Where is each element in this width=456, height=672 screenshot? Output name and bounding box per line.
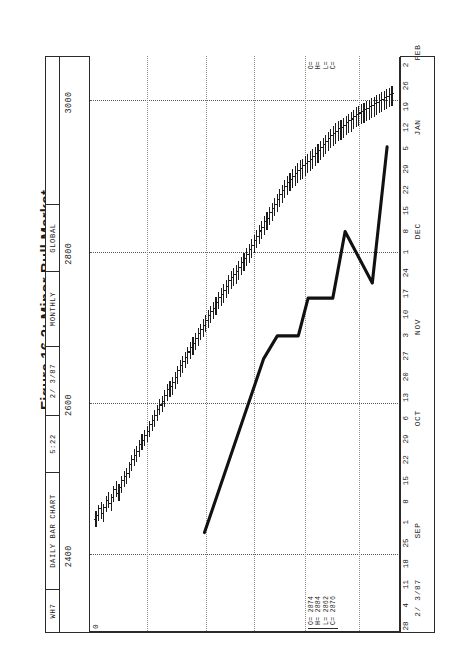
ohlc-open-tick (378, 102, 379, 103)
ohlc-open-tick (133, 459, 134, 460)
ohlc-open-tick (339, 128, 340, 129)
x-axis-month-label: DEC (414, 223, 422, 239)
ohlc-open-tick (107, 500, 108, 501)
ohlc-open-tick (171, 386, 172, 387)
x-axis-date-label: 3 (402, 333, 410, 338)
x-axis-month-label: SEP (414, 522, 422, 538)
ohlc-open-tick (385, 97, 386, 98)
grid-line-vertical (90, 100, 400, 101)
ohlc-open-tick (370, 106, 371, 107)
ohlc-open-tick (242, 262, 243, 263)
x-axis-date-label: 1 (402, 520, 410, 525)
ohlc-open-tick (304, 165, 305, 166)
ohlc-open-tick (222, 294, 223, 295)
ohlc-open-tick (135, 455, 136, 456)
x-axis-month-label: NOV (414, 319, 422, 335)
ohlc-open-tick (301, 168, 302, 169)
x-axis-date-label: 28 (402, 621, 410, 630)
ohlc-open-tick (125, 476, 126, 477)
ohlc-open-tick (293, 176, 294, 177)
ohlc-open-tick (202, 329, 203, 330)
grid-line-horizontal (359, 56, 360, 631)
ohlc-open-tick (240, 267, 241, 268)
ohlc-open-tick (362, 111, 363, 112)
ohlc-open-tick (232, 277, 233, 278)
ohlc-open-tick (161, 404, 162, 405)
x-axis-date-label: 6 (402, 416, 410, 421)
ohlc-open-tick (245, 258, 246, 259)
x-axis-date-label: 11 (402, 580, 410, 589)
x-axis-date-label: 15 (402, 206, 410, 215)
ohlc-open-tick (166, 395, 167, 396)
ohlc-open-tick (327, 141, 328, 142)
grid-line-vertical (90, 554, 400, 555)
ohlc-open-tick (115, 489, 116, 490)
ohlc-open-tick (105, 507, 106, 508)
ohlc-open-tick (265, 221, 266, 222)
x-axis-date-label: 24 (402, 268, 410, 277)
ohlc-open-tick (130, 464, 131, 465)
ohlc-open-tick (350, 120, 351, 121)
ohlc-open-tick (151, 424, 152, 425)
ohlc-open-tick (329, 138, 330, 139)
ohlc-open-tick (311, 159, 312, 160)
grid-line-horizontal (147, 56, 148, 631)
ohlc-open-tick (191, 347, 192, 348)
ohlc-open-tick (194, 343, 195, 344)
ohlc-open-tick (373, 105, 374, 106)
y-axis-scale: 3000280026002400 (59, 57, 89, 632)
x-axis-date-label: 25 (402, 538, 410, 547)
ohlc-open-tick (258, 236, 259, 237)
ohlc-open-tick (306, 163, 307, 164)
x-axis-month-label: OCT (414, 410, 422, 426)
ohlc-open-tick (344, 125, 345, 126)
ohlc-open-tick (342, 127, 343, 128)
ohlc-open-tick (360, 112, 361, 113)
ohlc-open-tick (324, 144, 325, 145)
x-axis-date-label: 29 (402, 434, 410, 443)
ohlc-open-tick (347, 122, 348, 123)
ohlc-open-tick (97, 515, 98, 516)
ohlc-open-tick (237, 271, 238, 272)
ohlc-open-tick (207, 320, 208, 321)
ohlc-open-tick (209, 315, 210, 316)
ohlc-open-tick (148, 431, 149, 432)
ohlc-open-tick (145, 435, 146, 436)
ohlc-open-tick (375, 103, 376, 104)
ohlc-open-tick (332, 135, 333, 136)
x-axis-month-label: FEB (414, 44, 422, 60)
ohlc-open-tick (355, 116, 356, 117)
ohlc-open-tick (390, 94, 391, 95)
grid-line-horizontal (305, 56, 306, 631)
ohlc-open-tick (214, 308, 215, 309)
x-axis-date-label: 20 (402, 372, 410, 381)
ohlc-open-tick (212, 311, 213, 312)
origin-marker: 0 (91, 624, 100, 629)
ohlc-open-tick (138, 451, 139, 452)
ohlc-open-tick (309, 161, 310, 162)
ohlc-open-tick (217, 302, 218, 303)
ohlc-open-tick (227, 286, 228, 287)
ohlc-open-tick (158, 409, 159, 410)
ohlc-open-tick (112, 497, 113, 498)
header-source: GLOBAL (46, 204, 59, 271)
ohlc-open-tick (230, 280, 231, 281)
ohlc-bar (390, 86, 393, 106)
chart-header-bar: WH7 DAILY BAR CHART 5:22 2/ 3/87 MONTHLY… (46, 57, 60, 632)
ohlc-open-tick (357, 114, 358, 115)
ohlc-open-tick (365, 109, 366, 110)
ohlc-open-tick (260, 230, 261, 231)
ohlc-open-tick (276, 204, 277, 205)
ohlc-range (391, 86, 392, 106)
x-axis-date-label: 22 (402, 185, 410, 194)
x-axis-date-label: 5 (402, 146, 410, 151)
x-axis-dates: 2841118251815222961320273101724181522295… (399, 57, 435, 632)
ohlc-open-tick (168, 389, 169, 390)
grid-line-horizontal (206, 56, 207, 631)
header-chart-type: DAILY BAR CHART (46, 472, 59, 589)
plot-inner: 0 (90, 56, 400, 631)
ohlc-open-tick (288, 182, 289, 183)
ohlc-open-tick (299, 170, 300, 171)
grid-line-horizontal (254, 56, 255, 631)
header-filler (46, 57, 59, 204)
